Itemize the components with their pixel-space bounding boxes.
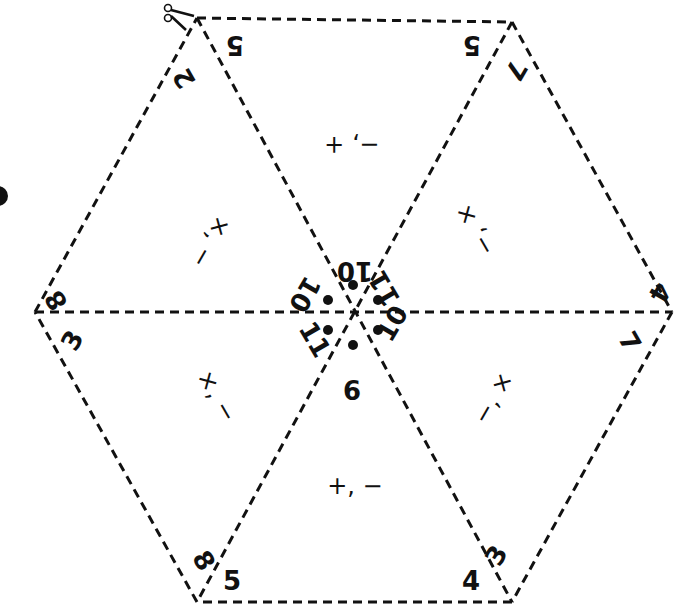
edge-upper-left xyxy=(35,18,197,312)
corner-bottom-left-5: 5 xyxy=(223,566,241,596)
corner-top-right-5: 5 xyxy=(463,30,481,60)
operators-bottom: +, − xyxy=(327,472,382,500)
inner-cut-lines xyxy=(35,18,672,602)
hexagon-puzzle-canvas: 10 11 10 9 11 10 5 5 2 7 8 3 4 7 8 5 4 3… xyxy=(0,0,682,610)
scissors-icon xyxy=(165,5,195,31)
operators-upper-right: −, × xyxy=(449,199,501,261)
cut-line-diagonal-b xyxy=(197,22,512,602)
operators-upper-left: ×, − xyxy=(185,211,237,273)
operators-top: −, + xyxy=(324,131,379,159)
corner-upper-left-2: 2 xyxy=(167,63,202,94)
center-sum-bottom: 9 xyxy=(343,374,361,404)
edge-lower-left xyxy=(35,312,197,602)
edge-top xyxy=(197,18,512,22)
corner-left-3: 3 xyxy=(55,325,90,356)
corner-upper-right-7: 7 xyxy=(498,55,533,86)
edge-upper-right xyxy=(512,22,672,312)
hexagon-diagram: 10 11 10 9 11 10 5 5 2 7 8 3 4 7 8 5 4 3… xyxy=(0,0,682,610)
edge-lower-right xyxy=(512,312,672,602)
corner-bottom-right-4: 4 xyxy=(462,566,480,596)
operators-lower-right: −, × xyxy=(467,367,519,429)
registration-dot xyxy=(0,186,8,206)
corner-right-7: 7 xyxy=(612,326,647,357)
corner-bottom-right-3: 3 xyxy=(479,540,514,571)
corner-right-4: 4 xyxy=(642,277,677,308)
corner-bottom-left-8: 8 xyxy=(186,545,221,576)
operators-lower-left: ×, − xyxy=(191,365,243,427)
corner-top-left-5: 5 xyxy=(226,30,244,60)
